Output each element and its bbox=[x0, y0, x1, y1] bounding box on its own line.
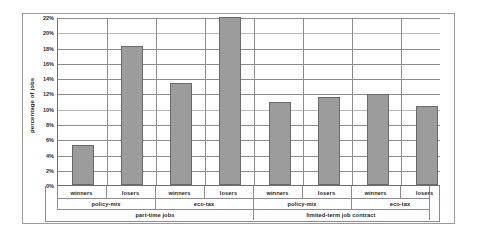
group-label-policy-mix: policy-mix bbox=[253, 200, 351, 209]
y-tick-label: 8% bbox=[34, 122, 54, 128]
y-tick-label: 6% bbox=[34, 137, 54, 143]
bar-part-time-policy-mix-losers[interactable] bbox=[121, 46, 143, 185]
y-tick-label: 14% bbox=[34, 76, 54, 82]
y-tick-label: 10% bbox=[34, 107, 54, 113]
y-tick-label: 18% bbox=[34, 46, 54, 52]
plot-area bbox=[57, 18, 440, 186]
bar-part-time-policy-mix-winners[interactable] bbox=[72, 145, 94, 185]
chart-figure: percentage of jobs 22% 20% 18% 16% 14% 1… bbox=[0, 0, 479, 238]
bar-label-winners: winners bbox=[57, 189, 106, 198]
y-tick-label: 4% bbox=[34, 153, 54, 159]
bar-limited-term-policy-mix-winners[interactable] bbox=[269, 102, 291, 185]
y-tick-label: 2% bbox=[34, 168, 54, 174]
bar-label-winners: winners bbox=[155, 189, 204, 198]
bar-label-winners: winners bbox=[253, 189, 302, 198]
y-tick-label: 16% bbox=[34, 61, 54, 67]
bar-label-losers: losers bbox=[302, 189, 351, 198]
label-rule bbox=[57, 198, 429, 199]
category-label-table: winners losers winners losers winners lo… bbox=[45, 186, 440, 222]
bar-label-losers: losers bbox=[106, 189, 155, 198]
bar-part-time-eco-tax-losers[interactable] bbox=[219, 17, 241, 185]
bar-part-time-eco-tax-winners[interactable] bbox=[170, 83, 192, 185]
top-group-label-part-time-jobs: part-time jobs bbox=[57, 211, 253, 220]
y-tick-label: 12% bbox=[34, 91, 54, 97]
bar-label-winners: winners bbox=[351, 189, 400, 198]
group-label-policy-mix: policy-mix bbox=[57, 200, 155, 209]
bar-limited-term-eco-tax-losers[interactable] bbox=[416, 106, 438, 185]
top-group-label-limited-term-job-contract: limited-term job contract bbox=[253, 211, 429, 220]
bar-limited-term-policy-mix-losers[interactable] bbox=[318, 97, 340, 185]
y-tick-label: 22% bbox=[34, 15, 54, 21]
y-axis-tick-labels: 22% 20% 18% 16% 14% 12% 10% 8% 6% 4% 2% … bbox=[34, 18, 54, 186]
bar-limited-term-eco-tax-winners[interactable] bbox=[367, 94, 389, 185]
label-rule bbox=[57, 209, 429, 210]
group-label-eco-tax: eco-tax bbox=[351, 200, 449, 209]
y-tick-label: 20% bbox=[34, 30, 54, 36]
bar-series bbox=[58, 18, 440, 185]
group-label-eco-tax: eco-tax bbox=[155, 200, 253, 209]
bar-label-losers: losers bbox=[400, 189, 449, 198]
bar-label-losers: losers bbox=[204, 189, 253, 198]
